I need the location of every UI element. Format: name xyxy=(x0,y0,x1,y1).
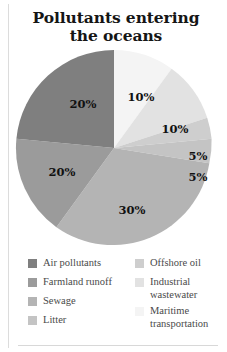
chart-legend: Air pollutants Farmland runoff Sewage Li… xyxy=(28,257,224,341)
pie-label-maritime-transportation: 10% xyxy=(128,90,155,104)
pie-chart-svg: 10% 10% 5% 5% 30% 20% 20% xyxy=(14,48,214,249)
legend-item-air-pollutants[interactable]: Air pollutants xyxy=(28,257,132,270)
legend-item-sewage[interactable]: Sewage xyxy=(28,295,132,308)
legend-column-left: Air pollutants Farmland runoff Sewage Li… xyxy=(28,257,132,333)
legend-label: Offshore oil xyxy=(150,257,201,270)
legend-swatch-icon xyxy=(28,316,37,325)
legend-item-industrial-wastewater[interactable]: Industrial wastewater xyxy=(135,276,227,301)
bottom-border-rule xyxy=(18,345,218,346)
legend-item-offshore-oil[interactable]: Offshore oil xyxy=(135,257,227,270)
pie-label-farmland-runoff: 20% xyxy=(49,165,76,179)
legend-label: Maritime transportation xyxy=(150,305,208,330)
legend-item-litter[interactable]: Litter xyxy=(28,314,132,327)
pie-slice-air-pollutants[interactable] xyxy=(16,50,114,148)
legend-swatch-icon xyxy=(28,259,37,268)
legend-item-maritime-transportation[interactable]: Maritime transportation xyxy=(135,305,227,330)
pie-label-litter: 5% xyxy=(189,170,208,184)
legend-label: Air pollutants xyxy=(43,257,101,270)
legend-label: Litter xyxy=(43,314,66,327)
left-border-rule xyxy=(8,4,9,348)
legend-swatch-icon xyxy=(135,259,144,268)
chart-title-line-1: Pollutants entering xyxy=(33,8,200,27)
chart-title-line-2: the oceans xyxy=(16,27,216,45)
legend-label: Industrial wastewater xyxy=(150,276,197,301)
pie-slices xyxy=(16,50,212,245)
legend-swatch-icon xyxy=(135,278,144,287)
legend-label: Sewage xyxy=(43,295,76,308)
legend-swatch-icon xyxy=(135,307,144,316)
chart-title: Pollutants entering the oceans xyxy=(16,9,216,45)
pie-label-industrial-wastewater: 10% xyxy=(162,122,189,136)
legend-swatch-icon xyxy=(28,278,37,287)
legend-label: Farmland runoff xyxy=(43,276,112,289)
pie-label-sewage: 30% xyxy=(119,203,146,217)
legend-swatch-icon xyxy=(28,297,37,306)
pie-label-air-pollutants: 20% xyxy=(70,97,97,111)
pie-label-offshore-oil: 5% xyxy=(189,149,208,163)
pie-chart: 10% 10% 5% 5% 30% 20% 20% xyxy=(14,48,214,249)
legend-column-right: Offshore oil Industrial wastewater Marit… xyxy=(135,257,227,334)
legend-item-farmland-runoff[interactable]: Farmland runoff xyxy=(28,276,132,289)
